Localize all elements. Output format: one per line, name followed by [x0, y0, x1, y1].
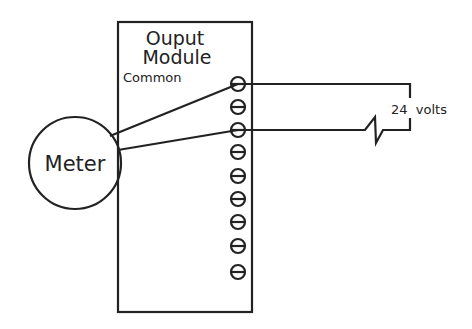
terminal-screw-icon [231, 265, 245, 279]
supply-voltage-label: 24 volts [391, 102, 447, 117]
terminal-screw-icon [231, 100, 245, 114]
terminal-screw-icon [231, 215, 245, 229]
terminal-screw-icon [231, 192, 245, 206]
terminal-strip [231, 77, 245, 279]
wire-meter-to-terminal-3 [118, 130, 238, 150]
module-title-line2: Module [142, 46, 211, 68]
terminal-screw-icon [231, 145, 245, 159]
common-label: Common [123, 70, 182, 85]
terminal-screw-icon [231, 123, 245, 137]
terminal-screw-icon [231, 169, 245, 183]
terminal-screw-icon [231, 239, 245, 253]
wire-terminal-3-to-supply [238, 117, 410, 143]
wire-common-to-supply [238, 84, 410, 98]
terminal-screw-icon [231, 77, 245, 91]
wiring-diagram: Ouput Module Common Meter 24 volts [0, 0, 472, 329]
meter-label: Meter [45, 152, 106, 176]
wire-meter-to-common [110, 84, 238, 136]
